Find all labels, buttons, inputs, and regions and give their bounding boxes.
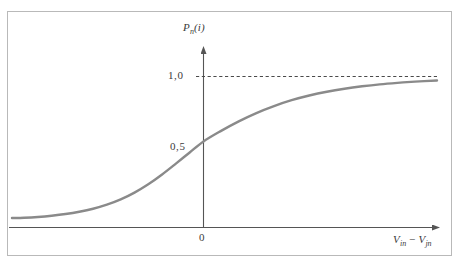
sigmoid-curve [12,80,437,218]
x-axis-label-v2-subscript: jn [425,239,431,248]
y-tick-label-1-0: 1,0 [168,69,184,81]
chart-figure: Pn(i) Vin − Vjn 1,0 0,5 0 [0,0,459,266]
x-axis-label: Vin − Vjn [393,233,432,248]
x-tick-label-origin: 0 [199,231,205,243]
x-axis-label-operator: − [406,233,418,245]
x-axis-label-v1: V [393,233,400,245]
y-axis-label-paren-close: ) [201,21,205,33]
y-axis-label-p: P [183,21,190,33]
plot-canvas [0,0,459,266]
y-tick-label-0-5: 0,5 [170,140,186,152]
y-axis-label: Pn(i) [183,21,205,36]
